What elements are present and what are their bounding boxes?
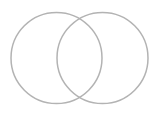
venn-diagram — [0, 0, 161, 115]
venn-svg — [0, 0, 161, 115]
